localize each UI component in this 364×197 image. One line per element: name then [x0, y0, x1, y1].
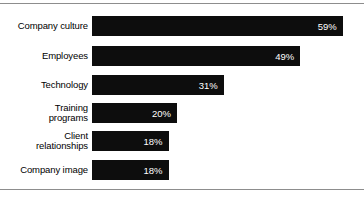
- bar-row: Company culture59%: [0, 16, 364, 36]
- bar: 59%: [92, 16, 343, 36]
- bar: 18%: [92, 131, 169, 151]
- bar-value-label: 18%: [143, 136, 162, 147]
- bar-value-label: 49%: [275, 51, 294, 62]
- bar-track: 18%: [92, 131, 364, 151]
- plot-area: Company culture59%Employees49%Technology…: [0, 12, 364, 184]
- bar-track: 49%: [92, 46, 364, 66]
- bar-row: Technology31%: [0, 75, 364, 95]
- bar-row: Client relationships18%: [0, 131, 364, 151]
- category-label: Client relationships: [0, 131, 92, 152]
- bar-track: 20%: [92, 103, 364, 123]
- bar: 20%: [92, 103, 177, 123]
- bar-value-label: 20%: [152, 108, 171, 119]
- bar: 18%: [92, 160, 169, 180]
- category-label: Training programs: [0, 103, 92, 124]
- bottom-divider-rule: [0, 189, 364, 190]
- category-label: Technology: [0, 80, 92, 91]
- bar-row: Company image18%: [0, 160, 364, 180]
- bar-track: 59%: [92, 16, 364, 36]
- top-divider-rule: [0, 3, 364, 4]
- bar: 49%: [92, 46, 300, 66]
- bar-row: Employees49%: [0, 46, 364, 66]
- bar-track: 31%: [92, 75, 364, 95]
- category-label: Employees: [0, 51, 92, 62]
- bar-value-label: 18%: [143, 165, 162, 176]
- bar-row: Training programs20%: [0, 103, 364, 123]
- category-label: Company culture: [0, 21, 92, 32]
- bar-value-label: 59%: [318, 21, 337, 32]
- bar-value-label: 31%: [199, 80, 218, 91]
- bar-track: 18%: [92, 160, 364, 180]
- category-label: Company image: [0, 165, 92, 176]
- bar-chart-figure: Company culture59%Employees49%Technology…: [0, 0, 364, 197]
- bar: 31%: [92, 75, 224, 95]
